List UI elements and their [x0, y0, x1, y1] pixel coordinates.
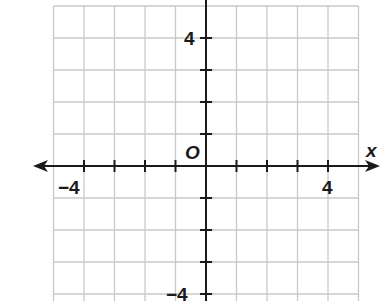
origin-label: O [185, 143, 200, 162]
x-tick-label-4: 4 [322, 178, 333, 197]
x-axis-label: x [366, 141, 377, 160]
y-tick-label-4: 4 [184, 29, 195, 48]
x-tick-label-neg4: −4 [58, 178, 80, 197]
y-tick-label-neg4: −4 [166, 285, 188, 301]
